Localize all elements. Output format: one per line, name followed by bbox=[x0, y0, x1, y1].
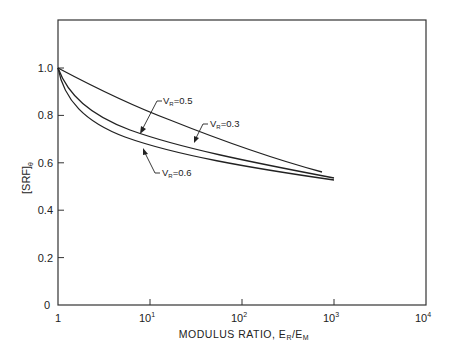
y-tick-label: 0.8 bbox=[38, 109, 53, 121]
annotation-vr-0.6: VR=0.6 bbox=[162, 167, 191, 179]
annotation-vr-0.3: VR=0.3 bbox=[210, 118, 239, 130]
chart: 0 0.2 0.4 0.6 0.8 1.0 1 101 102 103 104 … bbox=[0, 0, 456, 357]
annotation-vr-0.5: VR=0.5 bbox=[163, 95, 192, 107]
y-ticks bbox=[58, 68, 64, 258]
x-tick-label: 1 bbox=[55, 312, 61, 324]
x-tick-label: 104 bbox=[415, 311, 431, 324]
x-tick-label: 102 bbox=[231, 311, 247, 324]
x-ticks bbox=[150, 299, 334, 305]
curve-vr-0.3 bbox=[58, 68, 322, 172]
y-tick-label: 0.2 bbox=[38, 252, 53, 264]
y-axis-label: [SRF]θ bbox=[20, 162, 34, 194]
x-axis-label: MODULUS RATIO, ER/EM bbox=[179, 328, 309, 341]
y-tick-label: 0 bbox=[44, 299, 50, 311]
y-tick-label: 0.4 bbox=[38, 204, 53, 216]
y-tick-label: 1.0 bbox=[38, 62, 53, 74]
y-tick-labels: 0 0.2 0.4 0.6 0.8 1.0 bbox=[38, 62, 53, 311]
x-tick-labels: 1 101 102 103 104 bbox=[55, 311, 431, 324]
curves bbox=[58, 68, 334, 180]
plot-frame bbox=[58, 20, 426, 305]
x-tick-label: 103 bbox=[323, 311, 339, 324]
annotation-labels: VR=0.5 VR=0.3 VR=0.6 bbox=[162, 95, 239, 179]
y-tick-label: 0.6 bbox=[38, 157, 53, 169]
curve-vr-0.5 bbox=[58, 68, 334, 178]
x-tick-label: 101 bbox=[139, 311, 155, 324]
